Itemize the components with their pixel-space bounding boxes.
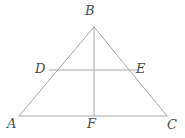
vertex-label-a: A — [7, 117, 16, 130]
vertex-label-c: C — [167, 118, 177, 131]
segment-bc — [94, 27, 167, 116]
vertex-label-b: B — [85, 4, 95, 17]
segment-ab — [19, 27, 94, 116]
vertex-label-d: D — [35, 62, 45, 75]
vertex-label-e: E — [136, 62, 146, 75]
interior-segments — [49, 27, 138, 116]
geometry-figure: B D E A F C — [0, 0, 185, 138]
vertex-label-f: F — [87, 117, 96, 130]
